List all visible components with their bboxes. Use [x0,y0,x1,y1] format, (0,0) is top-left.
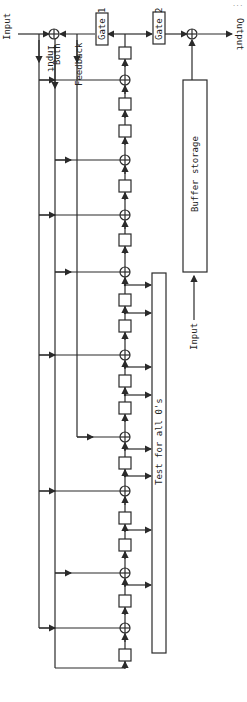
svg-text:Test for all 0's: Test for all 0's [154,398,164,485]
delay-cell [119,47,131,59]
xor-icon [120,267,130,277]
output-label: Output [235,18,245,51]
xor-icon [120,623,130,633]
xor-icon [120,350,130,360]
xor-icon [120,568,130,578]
delay-cell [119,649,131,661]
delay-cell [119,125,131,137]
xor-icon [120,155,130,165]
delay-cell [119,98,131,110]
main-input-label: Input [2,13,12,40]
delay-cell [119,375,131,387]
xor-icon [120,432,130,442]
delay-cell [119,595,131,607]
input-xor-icon [49,29,59,39]
buffer-input-label: Input [189,323,199,350]
register-cells [39,47,151,669]
gate-1: Gate 1 [96,7,108,45]
delay-cell [119,320,131,332]
delay-cell [119,234,131,246]
delay-cell [119,512,131,524]
xor-icon [120,210,130,220]
xor-icon [120,486,130,496]
output-xor-icon [187,29,197,39]
buffer-storage-box: Buffer storage [183,40,207,320]
gate-2: Gate 2 [153,7,165,44]
delay-cell [119,180,131,192]
shift-register-diagram: Input Output Gate 1 Gate 2 Input Both Fe… [0,0,247,702]
delay-cell [119,539,131,551]
delay-cell [119,294,131,306]
svg-text:Buffer storage: Buffer storage [190,136,200,212]
both-line-label: Both [52,43,62,65]
delay-cell [119,402,131,414]
test-for-all-zeros-box: Test for all 0's [152,273,166,653]
xor-icon [120,75,130,85]
svg-text:Gate 2: Gate 2 [154,7,164,40]
svg-text:Gate 1: Gate 1 [97,7,107,40]
delay-cell [119,457,131,469]
